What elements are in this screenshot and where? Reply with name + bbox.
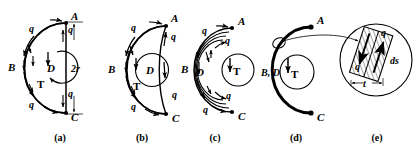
panel-a-node-c: [64, 111, 68, 115]
caption-a: (a): [54, 132, 66, 144]
panel-c-label-b: B: [180, 63, 188, 75]
panel-b-label-q-web-top: q: [171, 31, 176, 42]
panel-d: A C B, D T: [260, 14, 358, 123]
panel-a-label-c: C: [71, 111, 79, 123]
panel-b-label-c: C: [172, 112, 180, 124]
panel-b-q-arrow-4: [149, 22, 162, 24]
panel-d-label-c: C: [317, 111, 325, 123]
panel-a: A C B D T 2r q q q q: [7, 10, 83, 123]
panel-a-q-arrow-4: [50, 20, 62, 21]
panel-d-node-c: [308, 110, 313, 115]
panel-b-label-d: D: [145, 64, 154, 76]
panel-d-node-a: [308, 24, 313, 29]
panel-e: t q q ds: [340, 24, 412, 96]
panel-e-label-q-upper: q: [381, 27, 386, 38]
panel-c-tick-3: [207, 86, 211, 94]
panel-b-label-q-bottom: q: [131, 101, 136, 112]
panel-c-label-c: C: [238, 110, 246, 122]
panel-a-label-b: B: [7, 61, 15, 73]
panel-b-label-a: A: [170, 12, 178, 24]
panel-c-node-c: [230, 110, 234, 114]
panel-a-label-q-top: q: [29, 23, 34, 34]
panel-c-node-a: [230, 26, 234, 30]
panel-d-label-torque: T: [291, 68, 299, 80]
panel-c-q-arrow-6: [215, 92, 226, 99]
panel-c-q-arrow-4: [216, 26, 228, 27]
panel-a-label-d: D: [46, 62, 55, 74]
panel-b-web-q-down: [164, 62, 165, 78]
panel-c-label-torque: T: [233, 65, 241, 77]
panel-b-label-b: B: [107, 63, 115, 75]
panel-c-label-q-2: q: [225, 35, 230, 46]
figure-svg: A C B D T 2r q q q q A C B D: [0, 0, 413, 155]
caption-b: (b): [136, 132, 148, 144]
figure-container: A C B D T 2r q q q q A C B D: [0, 0, 413, 155]
panel-a-label-dimension: 2r: [70, 63, 80, 74]
panel-b-label-q-web-bottom: q: [172, 89, 177, 100]
panel-a-label-torque: T: [37, 78, 45, 90]
panel-b: A C B D T q q q q: [107, 12, 180, 124]
panel-e-label-q-lower: q: [355, 61, 360, 72]
panel-d-leader-line: [283, 35, 358, 41]
panel-a-label-q-bottom: q: [29, 99, 34, 110]
panel-c-label-a: A: [237, 15, 245, 27]
panel-c-label-q-4: q: [203, 104, 208, 115]
caption-c: (c): [209, 132, 220, 144]
panel-e-label-thickness: t: [363, 78, 367, 89]
panel-c-label-d: D: [195, 66, 204, 78]
panel-b-web-q-up: [164, 32, 166, 46]
panel-e-label-arc-length: ds: [390, 55, 399, 66]
panel-d-label-a: A: [316, 14, 324, 26]
panel-b-label-q-top: q: [131, 22, 136, 33]
panel-c-tick-1: [206, 52, 209, 62]
caption-d: (d): [290, 132, 302, 144]
panel-a-label-a: A: [70, 10, 78, 22]
panel-d-label-bd: B, D: [260, 67, 280, 78]
panel-b-label-torque: T: [133, 80, 141, 92]
panel-a-label-q-web-bottom: q: [68, 88, 73, 99]
caption-e: (e): [371, 132, 382, 144]
panel-c-label-q-1: q: [202, 25, 207, 36]
panel-e-element-group: [349, 27, 392, 82]
panel-c-label-q-3: q: [226, 90, 231, 101]
panel-a-label-q-web-top: q: [68, 24, 73, 35]
panel-b-node-a: [164, 24, 168, 28]
panel-b-node-c: [164, 112, 168, 116]
panel-c: A C B D T q q q q: [180, 15, 254, 122]
